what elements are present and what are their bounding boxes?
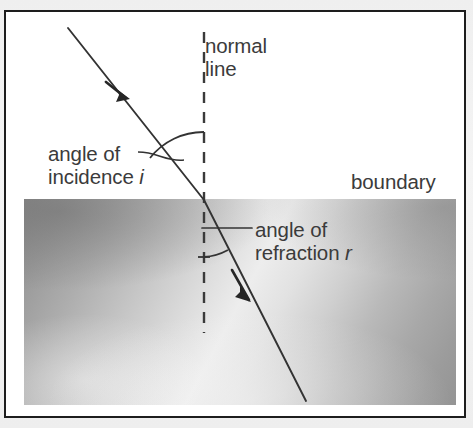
diagram-canvas: normal line angle of incidence i angle o…: [6, 12, 468, 420]
label-angle-of-incidence-line1: angle of: [48, 142, 120, 165]
angle-of-refraction-arc: [198, 250, 228, 257]
label-angle-of-incidence-line2: incidence: [48, 165, 134, 188]
label-angle-of-refraction-line1: angle of: [255, 218, 327, 241]
symbol-angle-of-incidence: i: [139, 165, 143, 188]
label-boundary: boundary: [351, 170, 436, 193]
label-normal-line-line1: normal: [205, 34, 267, 57]
figure-page: normal line angle of incidence i angle o…: [0, 0, 473, 428]
angle-of-incidence-arc: [150, 132, 204, 158]
figure-frame-border: normal line angle of incidence i angle o…: [4, 10, 466, 418]
symbol-angle-of-refraction: r: [345, 241, 352, 264]
label-angle-of-refraction: angle of refraction r: [255, 218, 352, 264]
angle-of-incidence-leader: [138, 152, 184, 160]
label-angle-of-refraction-line2: refraction: [255, 241, 339, 264]
label-normal-line: normal line: [205, 34, 267, 80]
label-angle-of-incidence: angle of incidence i: [48, 142, 144, 188]
label-normal-line-line2: line: [205, 57, 237, 80]
